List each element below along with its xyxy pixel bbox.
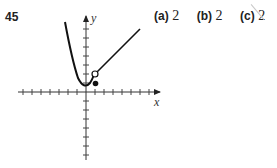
answer-label-a: (a)	[154, 9, 169, 23]
answer-value-b: 2	[216, 8, 223, 23]
answers: (a) 2 (b) 2 (c) 2	[154, 8, 277, 24]
filled-dot-point	[93, 81, 99, 87]
answer-label-c: (c)	[240, 9, 255, 23]
linear-branch	[97, 29, 141, 73]
y-axis-label: y	[90, 11, 97, 25]
answer-label-b: (b)	[197, 9, 212, 23]
parabola-curve	[65, 22, 94, 86]
open-circle-point	[92, 71, 98, 77]
piecewise-graph: y x	[0, 0, 277, 168]
answer-value-a: 2	[172, 8, 179, 23]
x-axis-label: x	[153, 95, 160, 109]
